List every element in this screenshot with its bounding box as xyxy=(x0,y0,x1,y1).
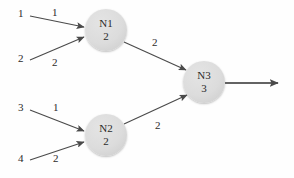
node-n1-value: 2 xyxy=(103,31,109,42)
input-edge-3 xyxy=(30,110,84,131)
edge-weight-n1-n3: 2 xyxy=(152,36,158,48)
input-weight-1: 1 xyxy=(52,6,58,18)
diagram-canvas: N1 2 N2 2 N3 3 1 2 3 4 1 2 1 2 2 2 xyxy=(0,0,294,178)
diagram-edges-layer xyxy=(0,0,294,178)
node-n1-label: N1 xyxy=(99,18,113,29)
node-n3[interactable]: N3 3 xyxy=(183,61,225,103)
edge-weight-n2-n3: 2 xyxy=(155,119,161,131)
node-n2-value: 2 xyxy=(103,136,109,147)
input-weight-3: 1 xyxy=(53,101,59,113)
node-n3-value: 3 xyxy=(201,83,207,94)
node-n1[interactable]: N1 2 xyxy=(85,9,127,51)
input-weight-4: 2 xyxy=(53,152,59,164)
node-n2-label: N2 xyxy=(99,123,113,134)
input-label-1: 1 xyxy=(18,7,24,19)
input-label-3: 3 xyxy=(18,101,24,113)
input-label-4: 4 xyxy=(18,152,24,164)
input-weight-2: 2 xyxy=(52,56,58,68)
node-n3-label: N3 xyxy=(197,70,211,81)
node-n2[interactable]: N2 2 xyxy=(85,114,127,156)
input-label-2: 2 xyxy=(18,52,24,64)
